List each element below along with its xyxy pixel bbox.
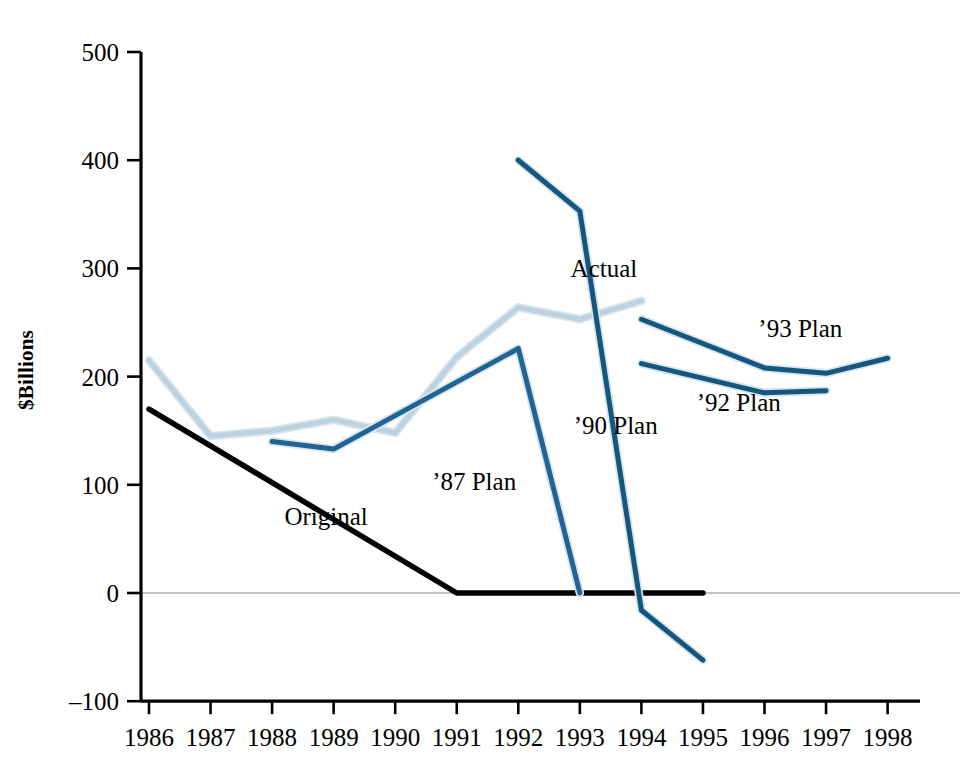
axes <box>141 52 920 701</box>
x-tick-label: 1996 <box>740 724 790 751</box>
y-tick-label: 300 <box>82 255 120 282</box>
series-label-original: Original <box>284 503 367 530</box>
x-tick-label: 1987 <box>186 724 236 751</box>
x-tick-label: 1989 <box>309 724 359 751</box>
x-tick-label: 1990 <box>370 724 420 751</box>
y-axis-ticks: 5004003002001000–100 <box>68 39 141 715</box>
y-tick-label: 200 <box>82 364 120 391</box>
series-line-87plan <box>272 348 580 593</box>
x-tick-label: 1997 <box>801 724 851 751</box>
series-label-90plan: ’90 Plan <box>574 412 659 439</box>
y-tick-label: –100 <box>68 688 119 715</box>
x-axis-ticks: 1986198719881989199019911992199319941995… <box>124 701 913 751</box>
series-label-93plan: ’93 Plan <box>758 315 843 342</box>
x-tick-label: 1986 <box>124 724 174 751</box>
series-line-90plan <box>518 160 703 660</box>
y-tick-label: 400 <box>82 147 120 174</box>
chart-canvas: $Billions 5004003002001000–100 198619871… <box>0 0 976 771</box>
series-label-92plan: ’92 Plan <box>697 389 782 416</box>
y-axis-title: $Billions <box>14 330 39 410</box>
series-annotations: ActualOriginal’87 Plan’90 Plan’92 Plan’9… <box>284 255 842 530</box>
series-halo <box>272 348 580 593</box>
x-tick-label: 1991 <box>432 724 482 751</box>
y-tick-label: 100 <box>82 472 120 499</box>
y-tick-label: 0 <box>107 580 120 607</box>
series-label-actual: Actual <box>571 255 638 282</box>
y-tick-label: 500 <box>82 39 120 66</box>
line-chart-svg: 5004003002001000–100 1986198719881989199… <box>0 0 976 771</box>
x-tick-label: 1992 <box>493 724 543 751</box>
x-tick-label: 1994 <box>616 724 667 751</box>
x-tick-label: 1998 <box>863 724 913 751</box>
x-tick-label: 1995 <box>678 724 728 751</box>
x-tick-label: 1993 <box>555 724 605 751</box>
x-tick-label: 1988 <box>247 724 297 751</box>
series-label-87plan: ’87 Plan <box>432 468 517 495</box>
